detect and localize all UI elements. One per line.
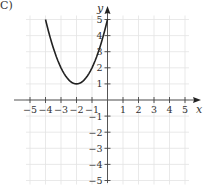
y-tick-label: −2 xyxy=(88,127,102,138)
parabola-chart: −5−4−3−2−11234554321−1−2−3−4−5 x y xyxy=(0,0,203,189)
x-tick-label: 5 xyxy=(182,104,188,115)
x-tick-label: 2 xyxy=(135,104,141,115)
x-axis-label: x xyxy=(196,103,203,116)
y-axis-arrow-icon xyxy=(105,6,111,14)
y-tick-label: 5 xyxy=(96,14,102,25)
x-tick-label: 1 xyxy=(120,104,126,115)
x-tick-label: 3 xyxy=(151,104,157,115)
x-tick-label: −5 xyxy=(23,104,37,115)
y-tick-label: 1 xyxy=(96,78,102,89)
y-tick-label: 2 xyxy=(96,62,102,73)
y-tick-label: −3 xyxy=(88,143,102,154)
x-tick-label: −3 xyxy=(54,104,68,115)
y-axis-label: y xyxy=(96,2,104,15)
axes xyxy=(14,6,201,183)
x-tick-label: −2 xyxy=(69,104,83,115)
y-tick-label: −4 xyxy=(88,159,102,170)
y-tick-label: −1 xyxy=(88,111,102,122)
x-tick-label: 4 xyxy=(166,104,172,115)
x-tick-label: −4 xyxy=(38,104,52,115)
y-tick-label: −5 xyxy=(88,175,102,186)
